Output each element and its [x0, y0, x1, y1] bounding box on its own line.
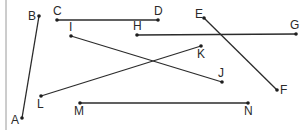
point-label-e: E: [195, 7, 203, 21]
segment-hg: [137, 34, 296, 35]
segment-kl: [41, 46, 201, 96]
point-label-j: J: [218, 66, 224, 80]
point-label-f: F: [280, 83, 287, 97]
point-label-g: G: [290, 18, 299, 32]
point-label-b: B: [28, 9, 36, 23]
labels-group: ABCDEFGHIJKLMN: [11, 4, 299, 127]
point-label-h: H: [133, 19, 142, 33]
point-d: [156, 18, 160, 22]
point-a: [20, 116, 24, 120]
point-label-k: K: [197, 47, 205, 61]
segments-group: [22, 16, 296, 118]
point-f: [275, 88, 279, 92]
point-c: [55, 18, 59, 22]
point-label-l: L: [37, 97, 44, 111]
point-label-d: D: [154, 4, 163, 18]
point-b: [37, 14, 41, 18]
point-label-m: M: [74, 104, 84, 118]
point-label-i: I: [69, 20, 72, 34]
point-g: [294, 32, 298, 36]
point-label-c: C: [53, 4, 62, 18]
point-label-n: N: [244, 104, 253, 118]
points-group: [20, 14, 298, 120]
line-segment-diagram: ABCDEFGHIJKLMN: [0, 0, 306, 130]
point-h: [135, 33, 139, 37]
point-label-a: A: [11, 113, 19, 127]
point-j: [220, 80, 224, 84]
point-i: [69, 34, 73, 38]
